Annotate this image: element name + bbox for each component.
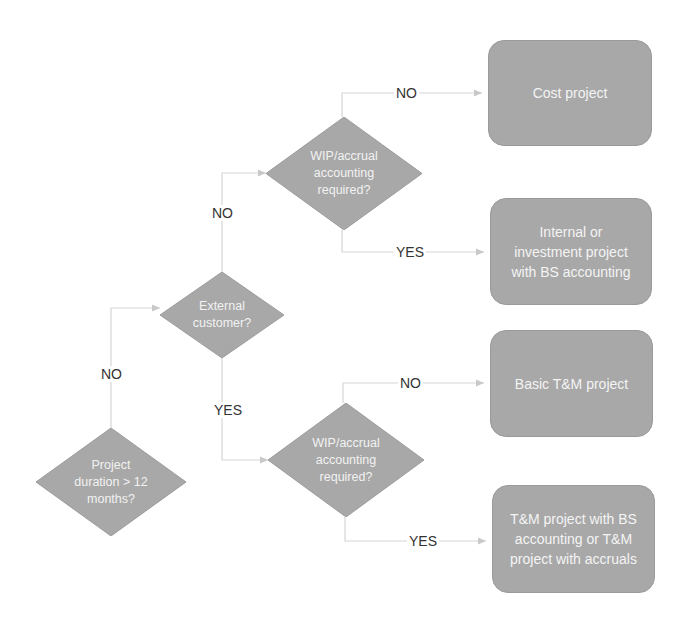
decision-text: External customer? bbox=[160, 272, 284, 358]
decision-external-customer: External customer? bbox=[160, 272, 284, 358]
decision-text: Project duration > 12 months? bbox=[36, 428, 186, 536]
outcome-cost-project: Cost project bbox=[488, 40, 652, 146]
edge-label-d3-no: NO bbox=[394, 85, 419, 101]
decision-text: WIP/accrual accounting required? bbox=[268, 403, 424, 517]
decision-wip-accrual-external: WIP/accrual accounting required? bbox=[268, 403, 424, 517]
outcome-basic-tm-project: Basic T&M project bbox=[490, 330, 653, 437]
outcome-internal-investment-project: Internal or investment project with BS a… bbox=[490, 198, 652, 305]
decision-project-duration: Project duration > 12 months? bbox=[36, 428, 186, 536]
outcome-tm-bs-accruals-project: T&M project with BS accounting or T&M pr… bbox=[492, 485, 655, 593]
decision-text: WIP/accrual accounting required? bbox=[266, 117, 422, 230]
edge-label-d3-yes: YES bbox=[394, 244, 426, 260]
edge-label-d1-no: NO bbox=[99, 366, 124, 382]
edge-label-d4-yes: YES bbox=[407, 533, 439, 549]
edge-label-d2-yes: YES bbox=[212, 402, 244, 418]
edge-label-d2-no: NO bbox=[210, 205, 235, 221]
edge-d2-d3 bbox=[222, 173, 266, 272]
edge-label-d4-no: NO bbox=[398, 375, 423, 391]
decision-wip-accrual-internal: WIP/accrual accounting required? bbox=[266, 117, 422, 230]
